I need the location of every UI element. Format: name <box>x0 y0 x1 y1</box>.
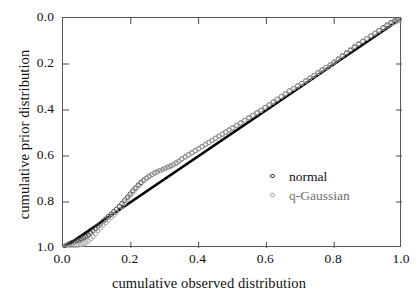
cropped-caption <box>0 300 418 308</box>
x-tick-label: 0.2 <box>121 252 138 266</box>
x-tick-label: 0.0 <box>53 252 70 266</box>
open-circle-icon <box>266 170 280 184</box>
y-tick-label: 0.8 <box>37 194 54 208</box>
figure-pp-plot: 0.00.20.40.60.81.0 1.00.80.60.40.20.0 cu… <box>0 0 418 308</box>
plot-canvas <box>63 18 402 248</box>
y-axis-title: cumulative prior distribution <box>16 15 33 255</box>
x-tick-label: 1.0 <box>392 252 409 266</box>
open-circle-icon <box>266 189 280 203</box>
legend-label-q-gaussian: q-Gaussian <box>289 188 350 204</box>
y-tick-label: 0.6 <box>37 148 54 162</box>
legend-item-normal: normal <box>266 167 386 186</box>
y-tick-label: 0.4 <box>37 102 54 116</box>
y-tick-label: 0.0 <box>37 10 54 24</box>
x-tick-label: 0.6 <box>257 252 274 266</box>
y-tick-label: 1.0 <box>37 240 54 254</box>
legend-label-normal: normal <box>289 169 327 185</box>
x-tick-label: 0.4 <box>189 252 206 266</box>
plot-area <box>62 17 401 247</box>
x-axis-title: cumulative observed distribution <box>0 275 418 292</box>
x-tick-label: 0.8 <box>325 252 342 266</box>
legend-item-q-gaussian: q-Gaussian <box>266 186 386 205</box>
y-tick-label: 0.2 <box>37 56 54 70</box>
legend: normal q-Gaussian <box>266 167 386 205</box>
